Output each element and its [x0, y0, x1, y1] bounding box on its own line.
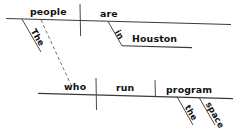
- subject-verb-divider-main: [80, 4, 81, 36]
- word-program: program: [166, 84, 212, 95]
- sentence-diagram-canvas: people are Houston who run program The i…: [0, 0, 237, 131]
- word-the-upper: The: [29, 27, 47, 48]
- word-space: space: [204, 100, 227, 130]
- word-the-lower: the: [183, 103, 200, 122]
- word-in: in: [113, 28, 126, 41]
- word-run: run: [116, 82, 134, 93]
- prep-object-baseline-houston: [122, 46, 192, 48]
- main-clause-baseline: [6, 19, 231, 25]
- subject-verb-divider-relative: [96, 78, 97, 110]
- word-who: who: [64, 81, 87, 92]
- word-are: are: [100, 8, 118, 19]
- word-people: people: [30, 6, 67, 17]
- word-houston: Houston: [132, 33, 177, 44]
- relative-clause-connector: [41, 20, 71, 85]
- reed-kellogg-diagram: people are Houston who run program The i…: [0, 0, 237, 131]
